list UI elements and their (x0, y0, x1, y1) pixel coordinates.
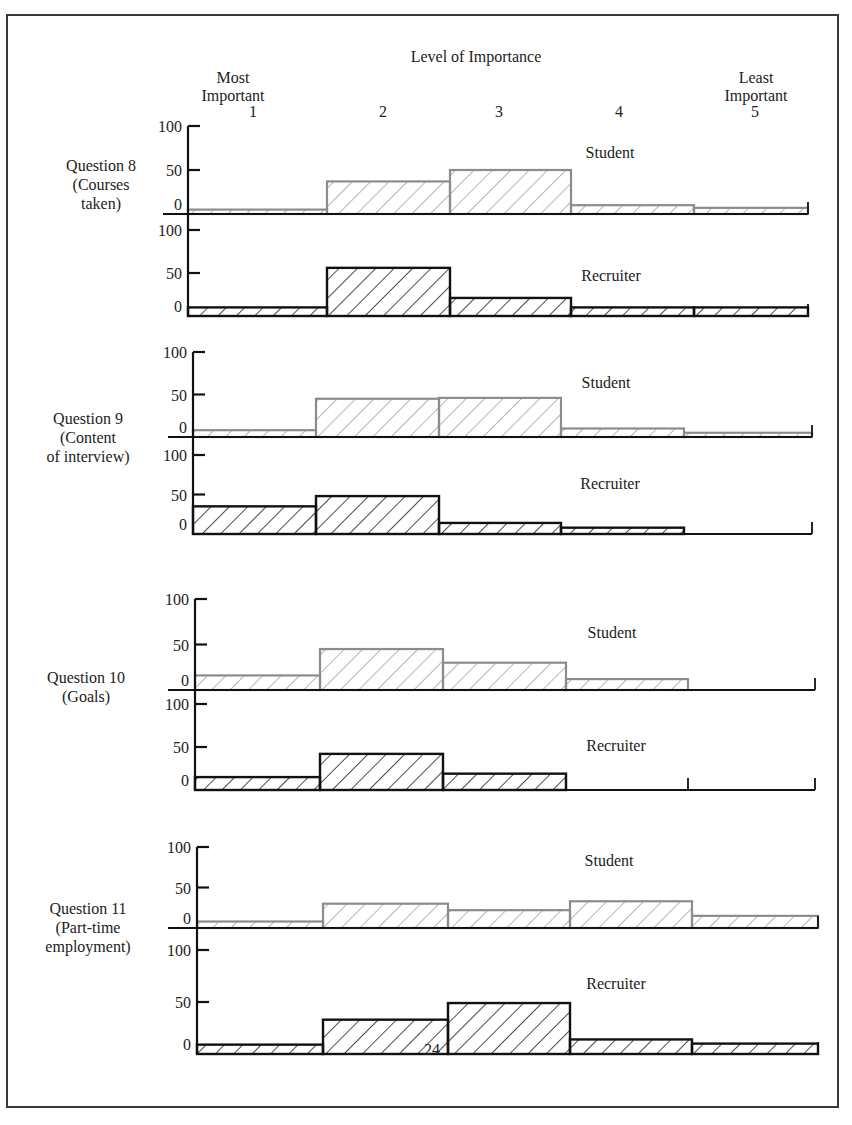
student-series: 100500Student (165, 591, 815, 690)
y-tick-label: 100 (163, 344, 187, 361)
y-tick-label: 50 (173, 739, 189, 756)
y-tick-label: 0 (183, 910, 191, 927)
histogram-bar (197, 1045, 323, 1054)
y-tick-label: 0 (183, 1036, 191, 1053)
histogram-bar (450, 170, 571, 214)
histogram-bar (323, 904, 448, 928)
histogram-bar (694, 307, 808, 316)
histogram-bar (316, 496, 439, 534)
histogram-bar (570, 901, 692, 928)
y-tick-label: 100 (167, 839, 191, 856)
recruiter-label: Recruiter (586, 737, 646, 754)
histogram-bar (448, 910, 570, 928)
histogram-bar (443, 663, 566, 690)
histogram-bar (570, 1039, 692, 1054)
y-tick-label: 50 (175, 880, 191, 897)
histogram-panels: 100500Student100500Recruiter100500Studen… (0, 0, 852, 1125)
histogram-bar (692, 1044, 818, 1054)
histogram-bar (316, 399, 439, 437)
question-panel: 100500Student100500Recruiter (167, 839, 818, 1054)
student-label: Student (582, 374, 631, 391)
histogram-bar (195, 777, 320, 790)
y-tick-label: 100 (158, 222, 182, 239)
student-series: 100500Student (167, 839, 818, 928)
histogram-bar (439, 523, 561, 534)
y-tick-label: 100 (165, 696, 189, 713)
histogram-bar (571, 205, 694, 214)
y-tick-label: 50 (171, 387, 187, 404)
histogram-bar (561, 429, 684, 438)
recruiter-series: 100500Recruiter (167, 942, 818, 1054)
y-tick-label: 50 (175, 994, 191, 1011)
recruiter-series: 100500Recruiter (158, 222, 808, 316)
student-series: 100500Student (163, 344, 812, 437)
recruiter-label: Recruiter (586, 975, 646, 992)
histogram-bar (448, 1003, 570, 1054)
recruiter-series: 100500Recruiter (165, 696, 815, 790)
histogram-bar (327, 268, 450, 316)
histogram-bar (566, 679, 688, 690)
recruiter-label: Recruiter (581, 267, 641, 284)
recruiter-label: Recruiter (580, 475, 640, 492)
y-tick-label: 0 (181, 672, 189, 689)
student-label: Student (585, 852, 634, 869)
y-tick-label: 0 (181, 772, 189, 789)
y-tick-label: 0 (179, 516, 187, 533)
histogram-bar (692, 916, 818, 928)
page-number: 24 (424, 1041, 440, 1059)
question-panel: 100500Student100500Recruiter (158, 118, 808, 316)
histogram-bar (195, 675, 320, 690)
histogram-bar (320, 649, 443, 690)
y-tick-label: 50 (166, 265, 182, 282)
student-series: 100500Student (158, 118, 808, 214)
y-tick-label: 50 (166, 162, 182, 179)
histogram-bar (320, 754, 443, 790)
histogram-bar (193, 506, 316, 534)
recruiter-series: 100500Recruiter (163, 447, 812, 534)
y-tick-label: 100 (165, 591, 189, 608)
histogram-bar (327, 181, 450, 214)
histogram-bar (450, 298, 571, 316)
y-tick-label: 50 (171, 487, 187, 504)
y-tick-label: 50 (173, 637, 189, 654)
y-tick-label: 0 (179, 419, 187, 436)
question-panel: 100500Student100500Recruiter (163, 344, 812, 534)
y-tick-label: 100 (163, 447, 187, 464)
question-panel: 100500Student100500Recruiter (165, 591, 815, 790)
y-tick-label: 100 (167, 942, 191, 959)
y-tick-label: 0 (174, 196, 182, 213)
y-tick-label: 0 (174, 298, 182, 315)
histogram-bar (443, 774, 566, 790)
histogram-bar (439, 398, 561, 437)
histogram-bar (571, 307, 694, 316)
student-label: Student (588, 624, 637, 641)
chart-layer: 100500Student100500Recruiter100500Studen… (158, 118, 818, 1054)
y-tick-label: 100 (158, 118, 182, 135)
student-label: Student (586, 144, 635, 161)
histogram-bar (188, 307, 327, 316)
